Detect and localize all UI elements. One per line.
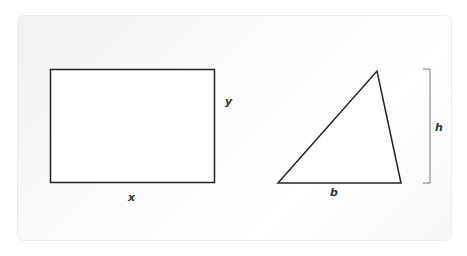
- triangle-height-label: h: [435, 121, 443, 134]
- rectangle-width-label: x: [128, 191, 135, 204]
- height-bracket: [423, 69, 430, 183]
- shapes-canvas: [0, 0, 467, 256]
- triangle-shape: [278, 71, 401, 183]
- rectangle-height-label: y: [225, 95, 232, 108]
- rectangle-shape: [51, 70, 215, 183]
- triangle-base-label: b: [330, 186, 338, 199]
